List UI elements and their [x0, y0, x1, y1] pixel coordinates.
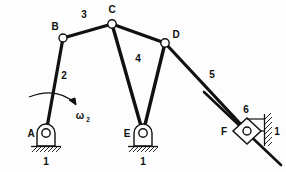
joint-label-D: D	[172, 29, 179, 40]
ground-label-1-at-A: 1	[43, 156, 49, 167]
ground-label-1-at-F: 1	[274, 126, 280, 137]
link-5-bar	[165, 43, 247, 131]
joint-label-F: F	[221, 126, 227, 137]
joint-label-C: C	[108, 4, 115, 15]
joint-label-E: E	[124, 128, 131, 139]
ground-label-1-at-E: 1	[140, 156, 146, 167]
joint-A-pin	[42, 129, 50, 137]
mechanism-drawing: A B C D E F 2 3 4 5 6 1 1 1 ω 2	[0, 0, 286, 172]
joint-E-pin	[139, 129, 147, 137]
link-label-2: 2	[61, 70, 67, 81]
link-2-bar	[46, 38, 63, 133]
pivot-A-hatching	[32, 147, 61, 152]
linkage-diagram: A B C D E F 2 3 4 5 6 1 1 1 ω 2	[0, 0, 286, 172]
ground-pivot-E	[128, 124, 158, 152]
link-4-ternary-body	[112, 24, 165, 133]
link-label-3: 3	[81, 9, 87, 20]
omega-2-label: ω	[76, 110, 85, 121]
joint-D-pin	[161, 39, 169, 47]
link-label-5: 5	[209, 69, 215, 80]
ground-pivot-A	[31, 124, 61, 152]
joint-label-A: A	[27, 128, 34, 139]
link-label-6: 6	[243, 104, 249, 115]
joint-F-pin	[243, 127, 251, 135]
pivot-E-hatching	[129, 147, 158, 152]
wall-F-hatching	[265, 113, 272, 146]
link-3-bar	[63, 24, 112, 38]
joint-C-pin	[108, 20, 116, 28]
ground-wall-F	[265, 113, 273, 146]
link-label-4: 4	[135, 53, 141, 64]
omega-2-subscript: 2	[86, 116, 90, 123]
joint-label-B: B	[51, 21, 58, 32]
joint-B-pin	[59, 34, 67, 42]
